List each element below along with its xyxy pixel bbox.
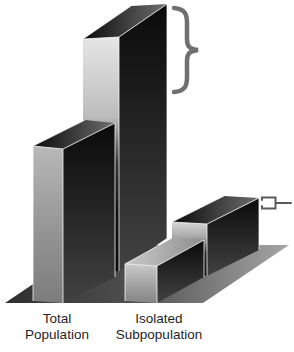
chart-canvas: Total Population Isolated Subpopulation	[0, 0, 294, 352]
large-curly-brace-icon	[174, 8, 198, 92]
label-isolated-subpopulation-line1: Isolated	[135, 311, 182, 326]
label-total-population-line2: Population	[25, 327, 89, 342]
figure-3d-population-bar-chart: Total Population Isolated Subpopulation	[0, 0, 294, 352]
bar-front-face	[33, 146, 63, 303]
bar-side-face	[63, 123, 115, 303]
label-total-population-line1: Total	[43, 311, 72, 326]
bar-side-face	[119, 4, 167, 271]
small-bracket-icon	[262, 198, 291, 209]
bar-front-face	[125, 264, 157, 303]
label-isolated-subpopulation-line2: Subpopulation	[116, 327, 202, 342]
bar-total-population-front	[33, 120, 115, 303]
